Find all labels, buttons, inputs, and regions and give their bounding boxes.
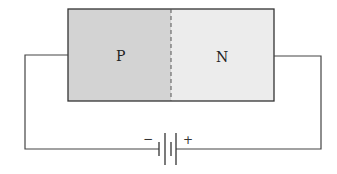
battery-negative-label: − — [143, 132, 153, 146]
p-label: P — [116, 48, 125, 64]
n-label: N — [216, 49, 228, 65]
pn-junction-diagram: P N − + — [0, 0, 337, 174]
battery-positive-label: + — [183, 133, 193, 147]
battery-icon — [159, 133, 176, 165]
